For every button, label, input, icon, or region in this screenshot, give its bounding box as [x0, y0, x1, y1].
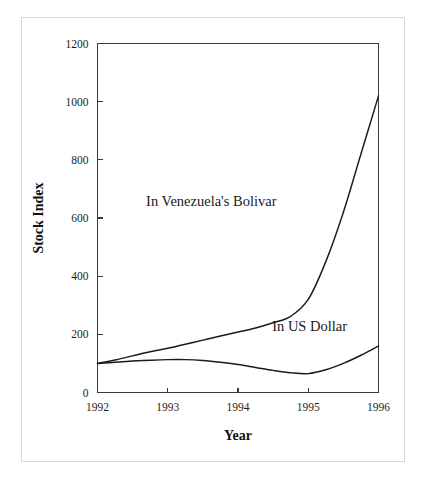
x-tick-label: 1993: [156, 401, 179, 413]
y-tick-label: 200: [71, 328, 89, 340]
x-axis-ticks: [168, 388, 309, 393]
plot-axes: [98, 43, 379, 393]
y-tick-label: 0: [83, 387, 89, 399]
x-axis-tick-labels: 19921993199419951996: [86, 401, 390, 413]
x-tick-label: 1992: [86, 401, 109, 413]
x-tick-label: 1995: [297, 401, 320, 413]
y-tick-label: 400: [71, 270, 89, 282]
y-tick-label: 1000: [66, 96, 89, 108]
y-tick-label: 1200: [66, 38, 89, 50]
x-tick-label: 1996: [367, 401, 390, 413]
series-annotation-group: In Venezuela's BolivarIn US Dollar: [146, 193, 347, 334]
figure-root: 020040060080010001200 199219931994199519…: [0, 0, 425, 482]
y-axis-tick-labels: 020040060080010001200: [66, 38, 89, 399]
x-axis-title: Year: [224, 428, 252, 443]
y-tick-label: 800: [71, 154, 89, 166]
y-axis-title: Stock Index: [31, 182, 46, 253]
series-line-in-us-dollar: [98, 346, 379, 374]
y-tick-label: 600: [71, 212, 89, 224]
x-tick-label: 1994: [227, 401, 250, 413]
y-axis-ticks: [98, 102, 103, 335]
line-chart: 020040060080010001200 199219931994199519…: [0, 0, 425, 482]
series-annotation-in-venezuela-s-bolivar: In Venezuela's Bolivar: [146, 193, 277, 209]
series-annotation-in-us-dollar: In US Dollar: [272, 318, 347, 334]
